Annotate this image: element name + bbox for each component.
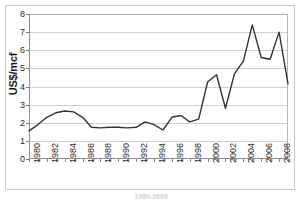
y-tick-label: 1 bbox=[20, 136, 25, 145]
y-tick-label: 6 bbox=[20, 46, 25, 55]
x-tick-label: 1988 bbox=[104, 143, 113, 163]
x-tick-mark bbox=[279, 159, 280, 162]
y-tick-label: 3 bbox=[20, 100, 25, 109]
x-tick-mark bbox=[136, 159, 137, 162]
x-tick-mark bbox=[261, 159, 262, 162]
x-tick-label: 2002 bbox=[229, 143, 238, 163]
y-tick-label: 2 bbox=[20, 118, 25, 127]
y-tick-label: 5 bbox=[20, 64, 25, 73]
x-tick-mark bbox=[208, 159, 209, 162]
price-series-line bbox=[29, 14, 288, 159]
y-axis-title: US$/mcf bbox=[7, 44, 19, 104]
plot-area: 012345678 bbox=[29, 14, 288, 159]
figure-caption: 1980-2009 bbox=[0, 193, 302, 202]
x-tick-mark bbox=[83, 159, 84, 162]
x-tick-label: 1982 bbox=[51, 143, 60, 163]
chart-figure: US$/mcf 012345678 1980198219841986198819… bbox=[0, 0, 302, 202]
x-tick-label: 1996 bbox=[176, 143, 185, 163]
series-polyline bbox=[29, 25, 288, 131]
x-tick-mark bbox=[190, 159, 191, 162]
x-tick-mark bbox=[29, 159, 30, 162]
x-tick-mark bbox=[154, 159, 155, 162]
y-tick-label: 8 bbox=[20, 10, 25, 19]
x-tick-mark bbox=[65, 159, 66, 162]
x-tick-label: 2008 bbox=[283, 143, 292, 163]
x-tick-mark bbox=[243, 159, 244, 162]
y-tick-label: 4 bbox=[20, 82, 25, 91]
y-tick-label: 7 bbox=[20, 28, 25, 37]
x-tick-label: 2000 bbox=[212, 143, 221, 163]
x-tick-label: 2006 bbox=[265, 143, 274, 163]
x-tick-mark bbox=[172, 159, 173, 162]
x-tick-label: 1992 bbox=[140, 143, 149, 163]
x-tick-label: 1994 bbox=[158, 143, 167, 163]
x-tick-mark bbox=[118, 159, 119, 162]
x-tick-mark bbox=[225, 159, 226, 162]
x-tick-label: 1990 bbox=[122, 143, 131, 163]
x-tick-label: 1986 bbox=[87, 143, 96, 163]
x-tick-label: 2004 bbox=[247, 143, 256, 163]
x-tick-label: 1984 bbox=[69, 143, 78, 163]
x-tick-mark bbox=[47, 159, 48, 162]
y-tick-label: 0 bbox=[20, 155, 25, 164]
x-tick-label: 1998 bbox=[194, 143, 203, 163]
x-tick-label: 1980 bbox=[33, 143, 42, 163]
x-tick-mark bbox=[100, 159, 101, 162]
